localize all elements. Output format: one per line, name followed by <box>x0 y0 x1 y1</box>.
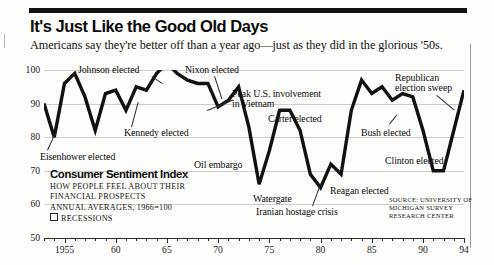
x-tick-1958 <box>95 238 96 241</box>
x-tick-label-1990: 90 <box>418 244 428 255</box>
legend-recessions-label: Recessions <box>61 214 113 223</box>
x-tick-1982 <box>341 238 342 241</box>
x-tick-1962 <box>136 238 137 241</box>
x-tick-1965 <box>167 238 168 243</box>
x-tick-label-1994: 94 <box>459 244 469 255</box>
top-rule <box>29 8 467 13</box>
y-tick-label-80: 80 <box>18 131 40 142</box>
x-tick-1956 <box>75 238 76 241</box>
annotation-johnson: Johnson elected <box>78 65 139 76</box>
page-title: It's Just Like the Good Old Days <box>30 17 268 36</box>
x-tick-label-1965: 65 <box>162 244 172 255</box>
x-tick-1985 <box>372 238 373 243</box>
source-note: Source: University of Michigan Survey Re… <box>389 196 479 221</box>
annotation-gop-line2: election sweep <box>395 83 452 94</box>
annotation-watergate: Watergate <box>253 194 292 205</box>
x-tick-1990 <box>423 238 424 243</box>
page-subtitle: Americans say they're better off than a … <box>30 38 443 53</box>
x-tick-1993 <box>454 238 455 241</box>
x-tick-label-1970: 70 <box>213 244 223 255</box>
page-edge-left <box>4 34 5 48</box>
recession-swatch-icon <box>50 213 58 221</box>
x-tick-1992 <box>444 238 445 241</box>
annotation-bush: Bush elected <box>361 128 411 139</box>
x-tick-1972 <box>239 238 240 241</box>
annotation-kennedy: Kennedy elected <box>124 128 189 139</box>
annotation-nixon: Nixon elected <box>185 65 239 76</box>
x-tick-1980 <box>321 238 322 243</box>
x-tick-1964 <box>157 238 158 241</box>
annotation-clinton: Clinton elected <box>385 156 444 167</box>
x-tick-1963 <box>146 238 147 241</box>
x-tick-1974 <box>259 238 260 241</box>
x-tick-1967 <box>187 238 188 241</box>
x-axis-line <box>44 238 464 239</box>
annotation-reagan: Reagan elected <box>330 186 389 197</box>
x-tick-1976 <box>280 238 281 241</box>
x-tick-label-1980: 80 <box>316 244 326 255</box>
x-tick-1969 <box>208 238 209 241</box>
x-tick-1984 <box>362 238 363 241</box>
x-tick-1988 <box>403 238 404 241</box>
legend-description-2: financial prospects <box>50 192 200 201</box>
y-axis: 5060708090100 <box>18 70 40 242</box>
x-tick-1971 <box>228 238 229 241</box>
x-tick-1961 <box>126 238 127 241</box>
x-tick-1955 <box>65 238 66 243</box>
legend-block: Consumer Sentiment Index How people feel… <box>50 168 200 223</box>
y-tick-label-100: 100 <box>18 64 40 75</box>
x-tick-1994 <box>464 238 465 243</box>
x-tick-label-1960: 60 <box>111 244 121 255</box>
y-tick-label-70: 70 <box>18 165 40 176</box>
x-tick-1966 <box>177 238 178 241</box>
annotation-vietnam-line2: in Vietnam <box>232 99 274 110</box>
legend-title: Consumer Sentiment Index <box>50 168 200 180</box>
annotation-iran: Iranian hostage crisis <box>256 207 338 218</box>
annotation-eisenhower: Eisenhower elected <box>40 152 115 163</box>
x-tick-1991 <box>433 238 434 241</box>
annotation-carter: Carter elected <box>268 114 322 125</box>
y-tick-label-90: 90 <box>18 98 40 109</box>
x-tick-label-1985: 85 <box>367 244 377 255</box>
x-tick-1957 <box>85 238 86 241</box>
legend-recessions: Recessions <box>50 213 200 223</box>
x-tick-1983 <box>351 238 352 241</box>
x-tick-1953 <box>44 238 45 241</box>
x-tick-1987 <box>392 238 393 241</box>
legend-description-3: Annual averages, 1966=100 <box>50 203 200 212</box>
x-tick-1968 <box>198 238 199 241</box>
x-tick-1986 <box>382 238 383 241</box>
chart-figure: It's Just Like the Good Old Days America… <box>0 0 494 265</box>
x-tick-1960 <box>116 238 117 243</box>
x-tick-1975 <box>269 238 270 243</box>
x-tick-1973 <box>249 238 250 241</box>
x-tick-1970 <box>218 238 219 243</box>
x-tick-1977 <box>290 238 291 241</box>
x-tick-label-1975: 75 <box>265 244 275 255</box>
y-tick-label-50: 50 <box>18 232 40 243</box>
y-tick-label-60: 60 <box>18 198 40 209</box>
x-tick-1989 <box>413 238 414 241</box>
legend-description-1: How people feel about their <box>50 182 200 191</box>
x-tick-1959 <box>106 238 107 241</box>
x-tick-1978 <box>300 238 301 241</box>
x-tick-label-1955: 1955 <box>55 244 74 255</box>
x-tick-1954 <box>54 238 55 241</box>
annotation-oil: Oil embargo <box>194 160 242 171</box>
x-tick-1979 <box>310 238 311 241</box>
x-tick-1981 <box>331 238 332 241</box>
